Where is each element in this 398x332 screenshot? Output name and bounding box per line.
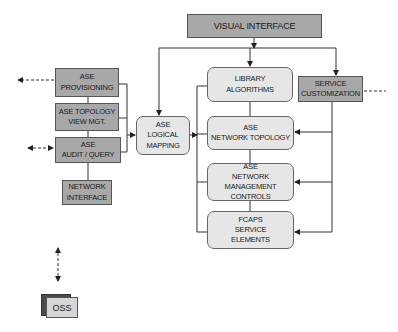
- ase-network-topology-box: ASE NETWORK TOPOLOGY: [207, 116, 294, 150]
- fcaps-service-elements-box: FCAPS SERVICE ELEMENTS: [207, 211, 294, 249]
- box-label: NETWORK MANAGEMENT: [208, 172, 293, 192]
- box-label: LIBRARY: [235, 74, 266, 84]
- box-label: INTERFACE: [67, 193, 107, 203]
- box-label: LOGICAL: [147, 130, 178, 140]
- oss-box: OSS: [46, 297, 78, 318]
- network-interface-box: NETWORK INTERFACE: [62, 180, 112, 205]
- box-label: VIEW MGT.: [68, 117, 105, 127]
- box-label: ASE: [81, 140, 95, 150]
- box-label: MAPPING: [146, 141, 179, 151]
- ase-logical-mapping-box: ASE LOGICAL MAPPING: [136, 116, 190, 155]
- box-label: ASE TOPOLOGY: [59, 107, 116, 117]
- box-label: ASE: [243, 123, 257, 133]
- box-label: PROVISIONING: [61, 83, 114, 93]
- box-label: CONTROLS: [230, 192, 270, 202]
- box-label: SERVICE: [235, 225, 266, 235]
- box-label: AUDIT / QUERY: [62, 150, 115, 160]
- box-label: NETWORK: [69, 182, 106, 192]
- oss-label: OSS: [52, 303, 71, 313]
- box-label: ASE: [156, 120, 170, 130]
- box-label: ASE: [243, 162, 257, 172]
- ase-provisioning-box: ASE PROVISIONING: [55, 68, 119, 97]
- ase-network-management-controls-box: ASE NETWORK MANAGEMENT CONTROLS: [207, 163, 294, 201]
- box-label: ALGORITHMS: [226, 85, 274, 95]
- visual-interface-label: VISUAL INTERFACE: [214, 20, 296, 32]
- visual-interface-box: VISUAL INTERFACE: [187, 14, 322, 38]
- connectors: [0, 0, 398, 332]
- box-label: SERVICE: [315, 79, 346, 89]
- ase-audit-query-box: ASE AUDIT / QUERY: [55, 137, 121, 163]
- ase-topology-view-mgt-box: ASE TOPOLOGY VIEW MGT.: [55, 103, 119, 131]
- box-label: ASE: [80, 72, 94, 82]
- box-label: ELEMENTS: [231, 235, 270, 245]
- library-algorithms-box: LIBRARY ALGORITHMS: [207, 67, 293, 102]
- service-customization-box: SERVICE CUSTOMIZATION: [298, 76, 363, 102]
- box-label: NETWORK TOPOLOGY: [211, 133, 290, 143]
- box-label: CUSTOMIZATION: [301, 89, 360, 99]
- box-label: FCAPS: [238, 215, 262, 225]
